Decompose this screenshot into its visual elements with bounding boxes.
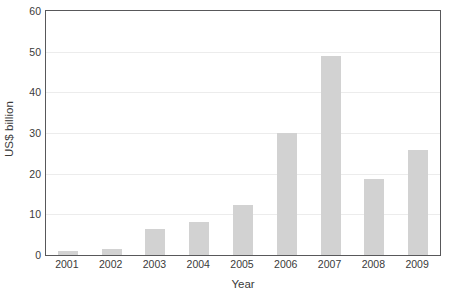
x-axis-title: Year (45, 278, 441, 290)
bar (321, 56, 341, 255)
y-axis-tick-label: 30 (29, 127, 41, 139)
bar (102, 249, 122, 255)
y-axis-tick-label: 60 (29, 5, 41, 17)
bars-group (46, 11, 440, 255)
bar (58, 251, 78, 255)
x-axis-tick-label: 2004 (187, 258, 210, 270)
x-axis-tick-label: 2007 (318, 258, 341, 270)
y-axis-tick-labels: 0102030405060 (18, 0, 45, 258)
bar (189, 222, 209, 255)
plot-area (45, 10, 441, 256)
x-axis-tick-label: 2008 (362, 258, 385, 270)
bar (145, 229, 165, 255)
bar-chart-figure: US$ billion 0102030405060 20012002200320… (0, 0, 451, 300)
bar (277, 133, 297, 255)
y-axis-title-label: US$ billion (3, 101, 15, 157)
bar (233, 205, 253, 255)
y-axis-tick-label: 10 (29, 208, 41, 220)
x-axis-tick-label: 2001 (55, 258, 78, 270)
x-axis-tick-label: 2002 (99, 258, 122, 270)
bar (408, 150, 428, 255)
y-axis-tick-label: 0 (35, 249, 41, 261)
x-axis-tick-label: 2006 (274, 258, 297, 270)
x-axis-tick-label: 2009 (405, 258, 428, 270)
y-axis-tick-label: 20 (29, 168, 41, 180)
bar (364, 179, 384, 255)
x-axis-tick-label: 2005 (230, 258, 253, 270)
y-axis-tick-label: 50 (29, 46, 41, 58)
x-axis-tick-labels: 200120022003200420052006200720082009 (45, 258, 441, 276)
y-axis-tick-label: 40 (29, 86, 41, 98)
x-axis-tick-label: 2003 (143, 258, 166, 270)
y-axis-title: US$ billion (0, 0, 18, 258)
